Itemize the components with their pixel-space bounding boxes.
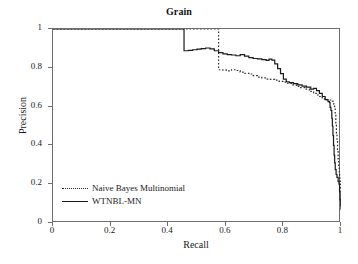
y-axis-title: Precision	[17, 56, 28, 176]
legend-label: WTNBL-MN	[92, 195, 142, 208]
x-tick-label: 0.8	[267, 225, 297, 235]
x-tick-label: 0.2	[95, 225, 125, 235]
chart-legend: Naive Bayes Multinomial WTNBL-MN	[62, 182, 185, 208]
legend-item: Naive Bayes Multinomial	[62, 182, 185, 195]
x-tick-label: 1	[325, 225, 355, 235]
y-tick	[48, 67, 52, 68]
x-axis-title: Recall	[52, 239, 340, 250]
x-tick-label: 0.6	[210, 225, 240, 235]
y-tick	[48, 183, 52, 184]
y-tick-label: 0	[8, 216, 42, 226]
y-tick-label: 1	[8, 22, 42, 32]
y-tick-label: 0.2	[8, 177, 42, 187]
solid-line-swatch-icon	[62, 197, 88, 206]
y-tick	[48, 28, 52, 29]
series-line-dotted	[53, 29, 341, 193]
x-tick-label: 0.4	[152, 225, 182, 235]
legend-item: WTNBL-MN	[62, 195, 185, 208]
precision-recall-chart: Grain 00.20.40.60.8100.20.40.60.81 Recal…	[0, 0, 358, 264]
y-tick	[48, 106, 52, 107]
chart-title: Grain	[0, 6, 358, 17]
x-tick-label: 0	[37, 225, 67, 235]
dotted-line-swatch-icon	[62, 184, 88, 193]
y-tick	[48, 144, 52, 145]
legend-label: Naive Bayes Multinomial	[92, 182, 185, 195]
y-tick	[48, 222, 52, 223]
